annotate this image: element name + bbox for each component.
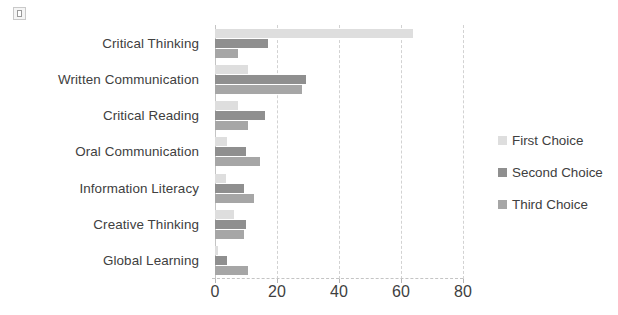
bar: [215, 111, 265, 120]
bar-group: [215, 25, 463, 61]
x-tick-label: 40: [330, 283, 348, 301]
legend-swatch-icon: [498, 168, 507, 177]
x-tick-label: 60: [392, 283, 410, 301]
bar: [215, 256, 227, 265]
bar: [215, 39, 268, 48]
bar: [215, 174, 226, 183]
bar: [215, 121, 248, 130]
category-label: Global Learning: [8, 243, 208, 279]
bar: [215, 184, 244, 193]
category-axis: Critical Thinking Written Communication …: [8, 25, 208, 279]
legend-label: Third Choice: [512, 197, 588, 212]
category-label: Creative Thinking: [8, 206, 208, 242]
legend-item[interactable]: First Choice: [498, 124, 613, 156]
bar-group: [215, 206, 463, 242]
legend-swatch-icon: [498, 136, 507, 145]
bar: [215, 137, 227, 146]
bar: [215, 157, 260, 166]
bar-group: [215, 61, 463, 97]
bar: [215, 101, 238, 110]
x-axis-baseline: [212, 278, 463, 279]
x-tick-label: 0: [211, 283, 220, 301]
legend-item[interactable]: Third Choice: [498, 188, 613, 220]
category-label: Written Communication: [8, 61, 208, 97]
broken-image-icon: [13, 7, 26, 20]
legend-item[interactable]: Second Choice: [498, 156, 613, 188]
category-label: Oral Communication: [8, 134, 208, 170]
x-tick-label: 20: [268, 283, 286, 301]
bar: [215, 266, 248, 275]
bar: [215, 147, 246, 156]
bar: [215, 85, 302, 94]
bar-group: [215, 170, 463, 206]
bar: [215, 230, 244, 239]
legend-label: Second Choice: [512, 165, 603, 180]
bar: [215, 75, 306, 84]
x-axis: 020406080: [215, 283, 463, 311]
bar: [215, 49, 238, 58]
bar: [215, 220, 246, 229]
plot-area: [215, 25, 463, 279]
x-tick-label: 80: [454, 283, 472, 301]
bar-group: [215, 98, 463, 134]
bar: [215, 65, 248, 74]
legend-label: First Choice: [512, 133, 583, 148]
bar: [215, 246, 218, 255]
category-label: Critical Thinking: [8, 25, 208, 61]
bar: [215, 29, 413, 38]
category-label: Critical Reading: [8, 98, 208, 134]
gridline: [463, 25, 464, 279]
bar-chart: Critical Thinking Written Communication …: [0, 0, 618, 315]
legend-swatch-icon: [498, 200, 507, 209]
legend: First ChoiceSecond ChoiceThird Choice: [498, 124, 613, 220]
bar-group: [215, 134, 463, 170]
bar: [215, 210, 234, 219]
bar: [215, 194, 254, 203]
bar-group: [215, 243, 463, 279]
category-label: Information Literacy: [8, 170, 208, 206]
